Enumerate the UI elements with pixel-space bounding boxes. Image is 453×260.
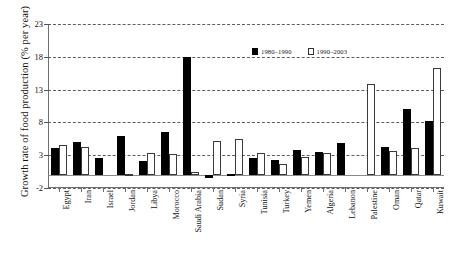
x-axis-label-lebanon: Lebanon <box>348 190 357 219</box>
x-axis-category-labels: EgyptIranIsraelJordanLibyaMoroccoSaudi A… <box>48 190 444 260</box>
bar <box>227 174 234 176</box>
bar-group <box>202 24 224 188</box>
legend-swatch-icon-series-1 <box>308 48 314 55</box>
bar <box>381 147 388 175</box>
bar <box>433 68 440 175</box>
x-axis-label-libya: Libya <box>150 190 159 209</box>
bar <box>323 153 330 175</box>
x-axis-label-syria: Syria <box>238 190 247 207</box>
legend-swatch-icon-series-0 <box>252 48 258 55</box>
bar <box>125 174 132 176</box>
bar <box>403 109 410 175</box>
bar <box>205 175 212 178</box>
x-axis-label-turkey: Turkey <box>282 190 291 213</box>
bar-group <box>48 24 70 188</box>
legend-label-series-0: 1980–1990 <box>261 48 292 55</box>
bar <box>73 142 80 175</box>
bar <box>271 160 278 175</box>
bar <box>169 154 176 175</box>
bar-group <box>92 24 114 188</box>
plot-area: -238131823 <box>48 24 444 188</box>
bar <box>411 148 418 175</box>
bar <box>279 164 286 175</box>
bar <box>51 148 58 175</box>
bar <box>95 158 102 175</box>
bar <box>301 157 308 175</box>
gridline--2 <box>48 188 444 189</box>
x-axis-label-yemen: Yemen <box>304 190 313 213</box>
bar <box>249 158 256 175</box>
y-tick-label--2: -2 <box>36 183 43 193</box>
y-tick-label-13: 13 <box>35 85 44 95</box>
bar-group <box>158 24 180 188</box>
bar <box>257 153 264 175</box>
bar-group <box>180 24 202 188</box>
y-tick-label-8: 8 <box>39 117 43 127</box>
x-axis-label-sudan: Sudan <box>216 190 225 210</box>
bar-group <box>70 24 92 188</box>
x-axis-label-algeria: Algeria <box>326 190 335 215</box>
y-axis-title: Growth rate of food production (% per ye… <box>19 2 30 202</box>
chart-legend: 1980–1990 1990–2003 <box>252 48 347 55</box>
bar-group <box>378 24 400 188</box>
x-axis-label-jordan: Jordan <box>128 190 137 212</box>
x-axis-label-iran: Iran <box>84 190 93 203</box>
bar <box>117 136 124 175</box>
bar-group <box>356 24 378 188</box>
bar <box>81 147 88 175</box>
bars-layer <box>48 24 444 188</box>
bar <box>315 152 322 175</box>
x-axis-label-palestine: Palestine <box>370 190 379 220</box>
bar <box>367 84 374 175</box>
x-axis-label-saudi-arabia: Saudi Arabia <box>194 190 203 233</box>
x-axis-label-qatar: Qatar <box>414 190 423 208</box>
bar <box>59 145 66 175</box>
bar-group <box>136 24 158 188</box>
legend-label-series-1: 1990–2003 <box>317 48 348 55</box>
bar <box>139 161 146 175</box>
bar <box>389 151 396 175</box>
y-tick-label-18: 18 <box>35 52 44 62</box>
bar-group <box>224 24 246 188</box>
x-axis-label-egypt: Egypt <box>62 190 71 210</box>
bar-group <box>400 24 422 188</box>
bar-group <box>114 24 136 188</box>
bar <box>425 121 432 175</box>
y-tick-label-23: 23 <box>35 19 44 29</box>
bar <box>161 132 168 175</box>
bar <box>147 153 154 175</box>
x-axis-label-morocco: Morocco <box>172 190 181 220</box>
bar <box>183 57 190 175</box>
bar <box>213 141 220 175</box>
x-axis-label-israel: Israel <box>106 190 115 208</box>
bar-group <box>422 24 444 188</box>
bar <box>337 143 344 174</box>
y-tick-mark--2 <box>44 188 49 189</box>
x-axis-label-tunisia: Tunisia <box>260 190 269 214</box>
x-axis-label-oman: Oman <box>392 190 401 210</box>
bar <box>235 139 242 175</box>
legend-item-series-1: 1990–2003 <box>308 48 348 55</box>
bar-chart: Growth rate of food production (% per ye… <box>0 0 453 260</box>
bar <box>293 150 300 175</box>
y-tick-label-3: 3 <box>39 150 43 160</box>
x-axis-label-kuwait: Kuwait <box>436 190 445 214</box>
bar <box>191 172 198 175</box>
legend-item-series-0: 1980–1990 <box>252 48 292 55</box>
